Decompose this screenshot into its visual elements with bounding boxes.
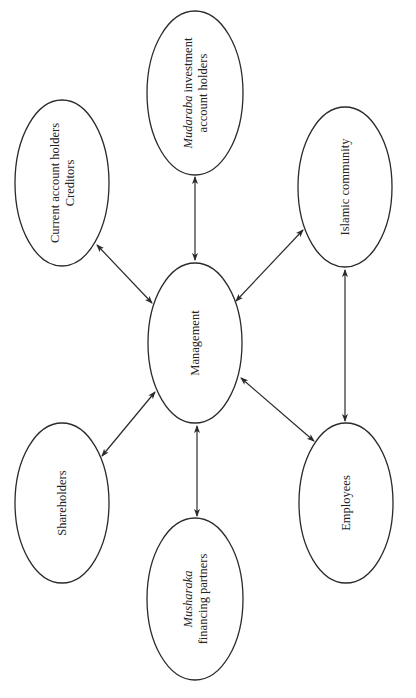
node-employees: Employees (299, 423, 393, 583)
node-label-line2: account holders (196, 53, 210, 132)
node-label: Employees (339, 475, 353, 531)
node-ellipse (147, 518, 243, 680)
node-musharaka-financing-partners: Musharaka financing partners (147, 518, 243, 680)
node-ellipse (147, 11, 243, 175)
node-current-account-holders: Current account holders Creditors (15, 100, 109, 266)
node-label: Management (188, 310, 202, 376)
edge-management-current (97, 245, 152, 303)
stakeholder-diagram: Current account holders Creditors Mudara… (0, 0, 416, 698)
node-islamic-community: Islamic community (298, 107, 392, 267)
node-ellipse (15, 100, 109, 266)
node-label: Islamic community (338, 138, 352, 236)
node-label-line2: financing partners (196, 554, 210, 645)
musharaka-italic-term: Musharaka (181, 571, 195, 629)
mudaraba-italic-term: Mudaraba (181, 96, 195, 150)
mudaraba-rest: investment (181, 37, 195, 96)
node-shareholders: Shareholders (15, 423, 109, 583)
node-label: Shareholders (55, 470, 69, 535)
edge-management-islamic (236, 230, 303, 301)
node-management: Management (148, 263, 242, 423)
node-label-line1: Mudaraba investment (181, 37, 195, 149)
node-label-line2: Creditors (63, 160, 77, 207)
edge-management-employees (241, 378, 314, 441)
edge-management-shareholders (102, 392, 155, 456)
node-mudaraba-investment-account-holders: Mudaraba investment account holders (147, 11, 243, 175)
node-label-line1: Current account holders (48, 123, 62, 243)
